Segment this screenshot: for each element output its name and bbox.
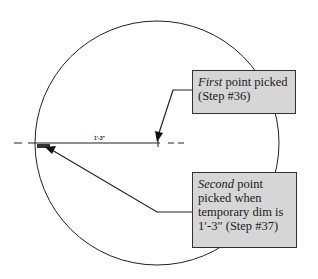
dimension-label: 1'-3" [94, 135, 105, 141]
callout-emphasis: Second [198, 177, 234, 191]
second-callout-leader [52, 150, 192, 212]
first-callout-leader [159, 90, 192, 133]
first-leader-arrowhead [155, 131, 163, 142]
first-point-callout: First point picked (Step #36) [192, 70, 296, 114]
callout-emphasis: First [198, 75, 222, 89]
second-leader-arrowhead [45, 146, 56, 154]
second-point-callout: Second point picked when temporary dim i… [192, 172, 297, 248]
